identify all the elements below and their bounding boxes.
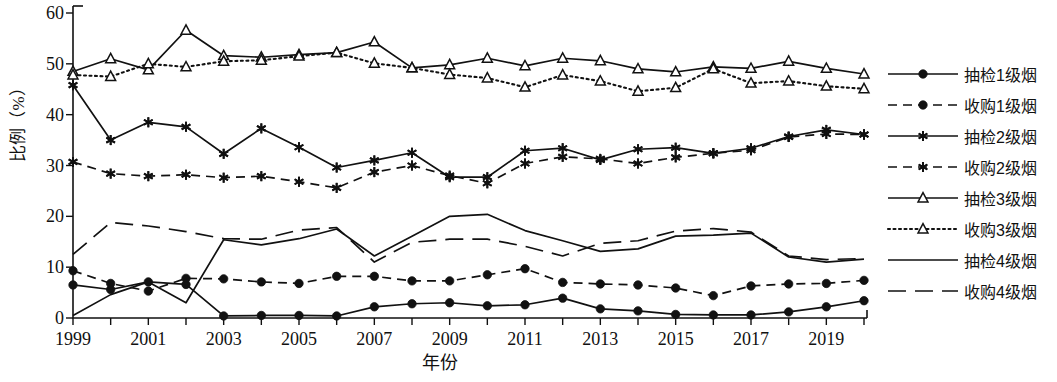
y-tick-label: 40 <box>24 106 64 124</box>
legend-line-sample-icon <box>886 94 960 116</box>
legend-item-7[interactable]: 抽检4级烟 <box>886 244 1057 275</box>
legend-item-6[interactable]: 收购3级烟 <box>886 213 1057 244</box>
legend-label: 收购4级烟 <box>960 279 1037 303</box>
legend-label: 收购2级烟 <box>960 155 1037 179</box>
y-tick-label: 20 <box>24 207 64 225</box>
legend-item-2[interactable]: 收购1级烟 <box>886 89 1057 120</box>
legend-line-sample-icon <box>886 156 960 178</box>
x-tick-label: 2015 <box>641 330 711 348</box>
x-tick-label: 2011 <box>490 330 560 348</box>
x-tick-label: 2007 <box>339 330 409 348</box>
legend-label: 收购1级烟 <box>960 93 1037 117</box>
legend-item-1[interactable]: 抽检1级烟 <box>886 58 1057 89</box>
x-tick-label: 2017 <box>716 330 786 348</box>
x-axis-title: 年份 <box>0 348 880 374</box>
series-group <box>68 25 869 320</box>
chart-figure: 比例（%） 年份 0102030405060 19992001200320052… <box>0 0 1057 382</box>
x-tick-label: 2005 <box>264 330 334 348</box>
legend-label: 抽检1级烟 <box>960 62 1037 86</box>
x-tick-label: 1999 <box>38 330 108 348</box>
y-tick-label: 30 <box>24 157 64 175</box>
y-tick-label: 0 <box>24 309 64 327</box>
legend-line-sample-icon <box>886 280 960 302</box>
x-ticks <box>73 318 864 325</box>
series-7 <box>73 214 864 315</box>
plot-area <box>0 0 886 345</box>
x-tick-label: 2013 <box>565 330 635 348</box>
chart-legend: 抽检1级烟收购1级烟抽检2级烟收购2级烟抽检3级烟收购3级烟抽检4级烟收购4级烟 <box>886 58 1057 306</box>
x-tick-label: 2019 <box>791 330 861 348</box>
legend-item-4[interactable]: 收购2级烟 <box>886 151 1057 182</box>
y-tick-label: 10 <box>24 258 64 276</box>
legend-label: 收购3级烟 <box>960 217 1037 241</box>
legend-item-5[interactable]: 抽检3级烟 <box>886 182 1057 213</box>
y-tick-label: 50 <box>24 55 64 73</box>
legend-line-sample-icon <box>886 218 960 240</box>
legend-item-8[interactable]: 收购4级烟 <box>886 275 1057 306</box>
legend-line-sample-icon <box>886 125 960 147</box>
x-tick-label: 2009 <box>415 330 485 348</box>
series-3 <box>69 80 869 182</box>
legend-label: 抽检2级烟 <box>960 124 1037 148</box>
legend-line-sample-icon <box>886 187 960 209</box>
x-tick-label: 2003 <box>189 330 259 348</box>
legend-line-sample-icon <box>886 249 960 271</box>
legend-label: 抽检4级烟 <box>960 248 1037 272</box>
series-4 <box>69 129 869 193</box>
legend-line-sample-icon <box>886 63 960 85</box>
y-tick-label: 60 <box>24 4 64 22</box>
axes <box>73 6 867 318</box>
legend-item-3[interactable]: 抽检2级烟 <box>886 120 1057 151</box>
series-8 <box>73 222 864 262</box>
x-tick-label: 2001 <box>113 330 183 348</box>
legend-label: 抽检3级烟 <box>960 186 1037 210</box>
